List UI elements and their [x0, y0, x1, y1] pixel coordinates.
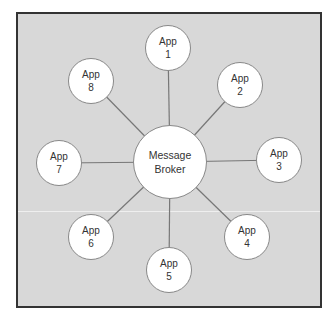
app-node-1: App 1	[145, 25, 191, 71]
app-label: App	[82, 224, 100, 237]
app-label: App	[160, 257, 178, 270]
broker-label-line2: Broker	[155, 162, 186, 176]
app-number: 4	[244, 237, 250, 250]
app-number: 6	[88, 237, 94, 250]
app-number: 3	[276, 160, 282, 173]
message-broker-node: Message Broker	[133, 125, 207, 199]
app-label: App	[159, 35, 177, 48]
app-node-8: App 8	[68, 58, 114, 104]
app-number: 2	[237, 85, 243, 98]
app-node-7: App 7	[36, 140, 82, 186]
app-label: App	[238, 224, 256, 237]
app-node-3: App 3	[256, 137, 302, 183]
app-label: App	[231, 72, 249, 85]
app-number: 8	[88, 81, 94, 94]
app-number: 5	[166, 270, 172, 283]
app-label: App	[50, 150, 68, 163]
app-number: 1	[165, 48, 171, 61]
broker-label-line1: Message	[149, 148, 192, 162]
app-node-4: App 4	[224, 214, 270, 260]
app-label: App	[82, 68, 100, 81]
app-node-2: App 2	[217, 62, 263, 108]
app-node-5: App 5	[146, 247, 192, 293]
app-label: App	[270, 147, 288, 160]
app-number: 7	[56, 163, 62, 176]
app-node-6: App 6	[68, 214, 114, 260]
